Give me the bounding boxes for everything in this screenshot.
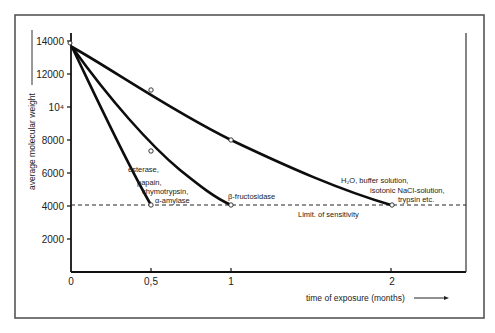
svg-text:trypsin etc.: trypsin etc.: [398, 195, 434, 204]
y-tick-label: 2000: [42, 234, 65, 245]
y-tick-label: 12000: [36, 69, 64, 80]
y-tick-label: 14000: [36, 36, 64, 47]
svg-text:H₂O, buffer solution,: H₂O, buffer solution,: [341, 176, 408, 185]
x-tick-label: 1: [228, 276, 234, 287]
svg-text:α-amylase: α-amylase: [155, 196, 190, 205]
x-axis-label: time of exposure (months): [306, 293, 449, 303]
chart: 2000 4000 6000 8000 10⁴ 12000 14000 0 0,…: [0, 0, 495, 333]
svg-text:esterase,: esterase,: [128, 165, 159, 174]
y-tick-label: 10⁴: [49, 102, 64, 113]
svg-text:chymotrypsin,: chymotrypsin,: [142, 187, 188, 196]
x-tick-label: 0,5: [144, 276, 158, 287]
svg-text:isotonic NaCl-solution,: isotonic NaCl-solution,: [370, 186, 445, 195]
y-tick-label: 8000: [42, 135, 65, 146]
y-tick-label: 4000: [42, 201, 65, 212]
limit-label: Limit. of sensitivity: [298, 210, 359, 219]
series-label-water-buffer: H₂O, buffer solution, isotonic NaCl-solu…: [341, 176, 445, 204]
x-ticks: 0 0,5 1 2: [68, 268, 395, 287]
svg-text:average molecular weight: average molecular weight: [27, 93, 37, 190]
x-tick-label: 0: [68, 276, 74, 287]
y-axis-label: average molecular weight: [27, 30, 37, 190]
svg-text:papain,: papain,: [137, 178, 162, 187]
svg-text:time of exposure (months): time of exposure (months): [306, 293, 405, 303]
x-tick-label: 2: [389, 276, 395, 287]
y-ticks: 2000 4000 6000 8000 10⁴ 12000 14000: [36, 36, 71, 245]
y-tick-label: 6000: [42, 168, 65, 179]
series-label-fructosidase: β-fructosidase: [228, 192, 275, 201]
